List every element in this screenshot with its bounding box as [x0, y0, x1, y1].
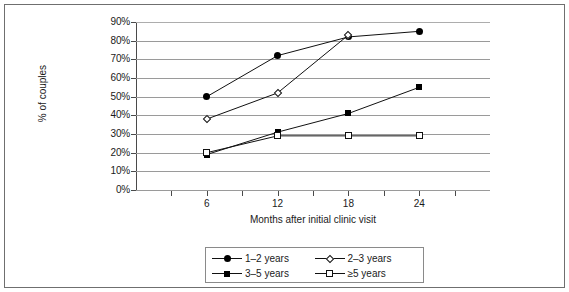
- square-filled-icon: [212, 268, 242, 280]
- plot-area: [136, 22, 490, 190]
- x-axis-tick-label: 12: [258, 198, 298, 209]
- y-axis-tick: [131, 153, 136, 154]
- x-axis-minor-tick: [171, 191, 172, 196]
- figure-container: % of couples 90%80%70%60%50%40%30%20%10%…: [0, 0, 569, 292]
- y-axis-tick-label: 30%: [88, 129, 130, 139]
- data-point-square-filled: [345, 110, 351, 116]
- legend-item-ge5-years[interactable]: ≥5 years: [315, 268, 418, 280]
- x-axis-tick: [207, 191, 208, 196]
- y-axis-tick-label: 20%: [88, 148, 130, 158]
- y-axis-tick-label: 60%: [88, 73, 130, 83]
- y-axis-tick: [131, 190, 136, 191]
- data-point-square-open: [345, 132, 352, 139]
- x-axis-minor-tick: [313, 191, 314, 196]
- legend-label: 3–5 years: [242, 268, 289, 279]
- series-line: [207, 35, 349, 119]
- y-axis-tick: [131, 97, 136, 98]
- y-axis-tick: [131, 134, 136, 135]
- y-axis-tick-label: 0%: [88, 185, 130, 195]
- x-axis-tick-label: 6: [187, 198, 227, 209]
- x-axis-minor-tick: [242, 191, 243, 196]
- y-axis-title: % of couples: [37, 34, 48, 154]
- legend-item-2-3-years[interactable]: 2–3 years: [315, 253, 418, 265]
- data-point-square-open: [203, 149, 210, 156]
- data-point-square-open: [274, 132, 281, 139]
- legend-item-3-5-years[interactable]: 3–5 years: [212, 268, 315, 280]
- diamond-open-icon: [315, 253, 345, 265]
- legend-row: 3–5 years ≥5 years: [212, 266, 417, 281]
- x-axis-tick: [419, 191, 420, 196]
- x-axis-minor-tick: [455, 191, 456, 196]
- y-axis-tick: [131, 22, 136, 23]
- y-axis-tick-label: 70%: [88, 54, 130, 64]
- y-axis-tick-label: 80%: [88, 36, 130, 46]
- y-axis-tick: [131, 59, 136, 60]
- x-axis-tick: [278, 191, 279, 196]
- x-axis-tick-label: 24: [399, 198, 439, 209]
- x-axis-tick-label: 18: [328, 198, 368, 209]
- legend-item-1-2-years[interactable]: 1–2 years: [212, 253, 315, 265]
- series-line: [207, 87, 419, 154]
- x-axis-minor-tick: [384, 191, 385, 196]
- legend: 1–2 years 2–3 years 3–5 years ≥5 years: [205, 247, 424, 283]
- legend-label: ≥5 years: [345, 268, 386, 279]
- data-point-square-open: [416, 132, 423, 139]
- legend-row: 1–2 years 2–3 years: [212, 251, 417, 266]
- y-axis-tick: [131, 115, 136, 116]
- data-point-circle-filled: [416, 28, 423, 35]
- series-lines: [136, 22, 490, 190]
- y-axis-tick-label: 10%: [88, 166, 130, 176]
- x-axis-tick: [348, 191, 349, 196]
- x-axis-title: Months after initial clinic visit: [136, 214, 490, 226]
- y-axis-tick-label: 90%: [88, 17, 130, 27]
- legend-label: 2–3 years: [345, 253, 392, 264]
- y-axis-tick-label: 50%: [88, 92, 130, 102]
- y-axis-tick-labels: 90%80%70%60%50%40%30%20%10%0%: [84, 0, 130, 292]
- y-axis-tick: [131, 171, 136, 172]
- legend-label: 1–2 years: [242, 253, 289, 264]
- square-open-icon: [315, 268, 345, 280]
- y-axis-tick-label: 40%: [88, 110, 130, 120]
- circle-filled-icon: [212, 253, 242, 265]
- data-point-square-filled: [416, 84, 422, 90]
- y-axis-tick: [131, 41, 136, 42]
- y-axis-tick: [131, 78, 136, 79]
